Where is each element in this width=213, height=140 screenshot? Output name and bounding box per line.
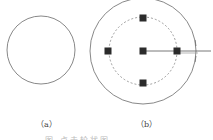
node-square-right bbox=[174, 48, 181, 55]
node-square-bottom bbox=[140, 80, 147, 87]
node-square-top bbox=[140, 15, 147, 22]
outer-tick-upper bbox=[195, 40, 196, 46]
figure-caption: 图 点击轮状图 bbox=[45, 134, 110, 140]
label-b: （b） bbox=[136, 118, 157, 129]
label-a: （a） bbox=[36, 118, 57, 129]
diagram-canvas bbox=[0, 0, 213, 140]
outer-tick-lower bbox=[195, 56, 196, 62]
node-group bbox=[105, 15, 181, 87]
circle-a bbox=[7, 16, 75, 84]
node-square-left bbox=[105, 48, 112, 55]
node-square-center bbox=[140, 48, 147, 55]
